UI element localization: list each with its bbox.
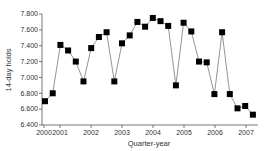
y-tick-label: 7.200 — [20, 58, 38, 65]
data-point-marker — [181, 20, 187, 26]
data-point-marker — [219, 29, 225, 35]
data-point-marker — [204, 59, 210, 65]
data-point-marker — [134, 19, 140, 25]
data-point-marker — [104, 29, 110, 35]
x-tick-label: 2004 — [145, 129, 161, 136]
y-axis-title: 14-day holds — [4, 48, 13, 91]
x-tick-label: 2000 — [36, 129, 52, 136]
data-point-marker — [81, 78, 87, 84]
y-tick-label: 6.800 — [20, 90, 38, 97]
data-point-marker — [227, 91, 233, 97]
y-tick-label: 7.400 — [20, 42, 38, 49]
data-point-marker — [188, 28, 194, 34]
y-axis: 6.4006.6006.8007.0007.2007.4007.6007.800 — [20, 10, 42, 128]
y-tick-label: 6.400 — [20, 121, 38, 128]
data-point-marker — [119, 40, 125, 46]
data-series — [42, 15, 256, 118]
x-axis-title: Quarter-year — [128, 139, 171, 148]
data-point-marker — [142, 24, 148, 30]
y-tick-label: 7.000 — [20, 74, 38, 81]
y-tick-label: 7.600 — [20, 26, 38, 33]
x-axis: 20002001200220032004200520062007 — [36, 125, 258, 136]
data-point-marker — [173, 82, 179, 88]
x-tick-label: 2003 — [114, 129, 130, 136]
data-point-marker — [111, 78, 117, 84]
data-point-marker — [150, 15, 156, 21]
x-tick-label: 2002 — [83, 129, 99, 136]
data-point-marker — [196, 59, 202, 65]
x-tick-label: 2006 — [207, 129, 223, 136]
data-point-marker — [50, 90, 56, 96]
data-point-marker — [211, 91, 217, 97]
data-point-marker — [73, 59, 79, 65]
x-tick-label: 2005 — [176, 129, 192, 136]
data-point-marker — [158, 18, 164, 24]
y-tick-label: 6.600 — [20, 105, 38, 112]
x-tick-label: 2007 — [238, 129, 254, 136]
x-tick-label: 2001 — [52, 129, 68, 136]
data-point-marker — [235, 105, 241, 111]
data-point-marker — [165, 23, 171, 29]
data-point-marker — [42, 98, 48, 104]
data-point-marker — [96, 34, 102, 40]
data-point-marker — [65, 47, 71, 53]
data-point-marker — [242, 103, 248, 109]
data-point-marker — [88, 45, 94, 51]
data-point-marker — [250, 112, 256, 118]
data-point-marker — [57, 42, 63, 48]
y-tick-label: 7.800 — [20, 10, 38, 17]
line-chart: 6.4006.6006.8007.0007.2007.4007.6007.800… — [0, 0, 267, 151]
data-point-marker — [127, 32, 133, 38]
